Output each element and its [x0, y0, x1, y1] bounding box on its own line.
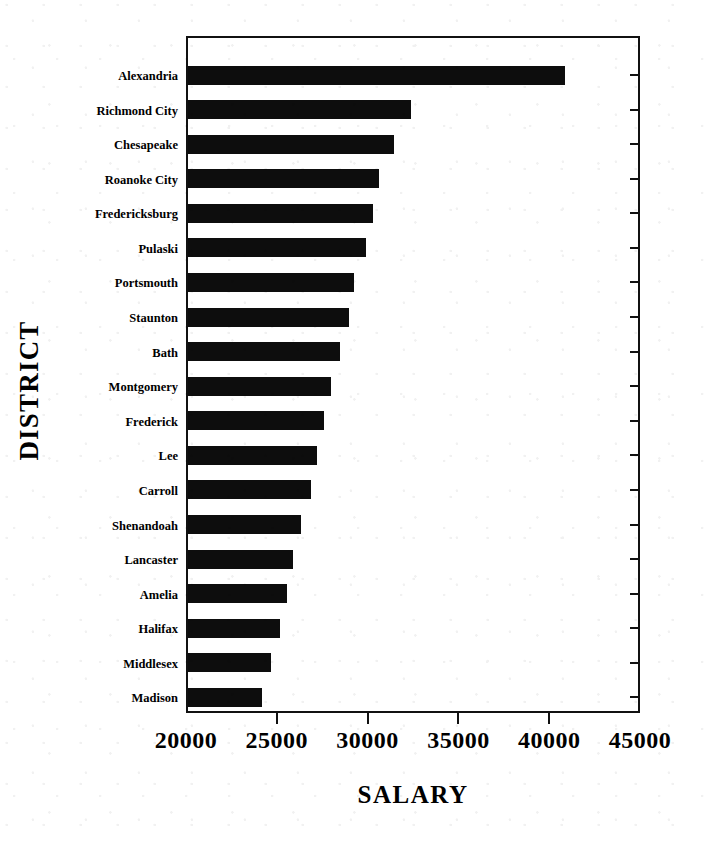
- category-label-row: Pulaski: [0, 239, 178, 257]
- category-label: Lancaster: [125, 553, 178, 567]
- x-axis-tick: [367, 713, 369, 724]
- category-label: Madison: [131, 691, 178, 705]
- category-label: Lee: [159, 449, 178, 463]
- category-label: Alexandria: [118, 69, 178, 83]
- category-label-row: Bath: [0, 343, 178, 361]
- category-label-row: Madison: [0, 688, 178, 706]
- category-label-row: Frederick: [0, 412, 178, 430]
- category-label: Montgomery: [109, 380, 178, 394]
- category-label: Shenandoah: [112, 519, 178, 533]
- category-label-row: Alexandria: [0, 66, 178, 84]
- category-label-row: Lee: [0, 446, 178, 464]
- category-label: Richmond City: [96, 104, 178, 118]
- x-axis-title: SALARY: [186, 781, 640, 809]
- category-label: Roanoke City: [105, 173, 178, 187]
- category-label-row: Fredericksburg: [0, 204, 178, 222]
- x-axis-tick: [548, 713, 550, 724]
- category-axis-labels: AlexandriaRichmond CityChesapeakeRoanoke…: [0, 36, 706, 713]
- x-axis-tick-label: 45000: [580, 727, 700, 754]
- x-axis-tick: [457, 713, 459, 724]
- category-label: Pulaski: [138, 242, 178, 256]
- x-axis-tick: [276, 713, 278, 724]
- category-label: Portsmouth: [115, 276, 178, 290]
- category-label-row: Shenandoah: [0, 516, 178, 534]
- category-label-row: Staunton: [0, 308, 178, 326]
- category-label-row: Chesapeake: [0, 135, 178, 153]
- category-label-row: Carroll: [0, 481, 178, 499]
- category-label-row: Lancaster: [0, 550, 178, 568]
- category-label: Staunton: [129, 311, 178, 325]
- bar-chart-figure: DISTRICT AlexandriaRichmond CityChesapea…: [0, 0, 706, 847]
- category-label-row: Halifax: [0, 619, 178, 637]
- category-label: Middlesex: [123, 657, 178, 671]
- category-label-row: Amelia: [0, 585, 178, 603]
- category-label: Chesapeake: [114, 138, 178, 152]
- category-label-row: Roanoke City: [0, 170, 178, 188]
- category-label-row: Richmond City: [0, 101, 178, 119]
- category-label-row: Montgomery: [0, 377, 178, 395]
- category-label-row: Portsmouth: [0, 273, 178, 291]
- category-label: Carroll: [139, 484, 178, 498]
- category-label-row: Middlesex: [0, 654, 178, 672]
- category-label: Bath: [152, 346, 178, 360]
- category-label: Fredericksburg: [95, 207, 178, 221]
- category-label: Amelia: [140, 588, 178, 602]
- category-label: Frederick: [125, 415, 178, 429]
- category-label: Halifax: [138, 622, 178, 636]
